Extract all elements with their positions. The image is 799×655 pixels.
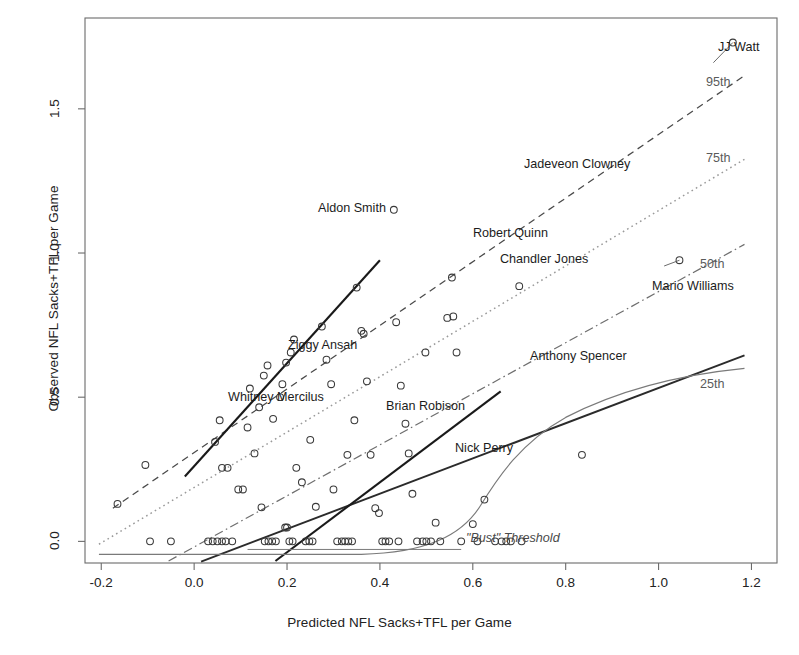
scatter-point (390, 206, 397, 213)
scatter-points (114, 39, 736, 545)
label-percentile-25: 25th (700, 378, 725, 391)
x-tick-label: 0.6 (463, 575, 482, 590)
scatter-point (264, 362, 271, 369)
x-tick-label: 1.2 (742, 575, 761, 590)
scatter-point (395, 538, 402, 545)
scatter-point (293, 464, 300, 471)
label-nick-perry: Nick Perry (455, 442, 513, 455)
scatter-point (422, 349, 429, 356)
scatter-point (168, 538, 175, 545)
scatter-point (114, 500, 121, 507)
label-percentile-50: 50th (700, 258, 725, 271)
x-axis-ticks (101, 563, 751, 570)
label-aldon-smith: Aldon Smith (318, 202, 386, 215)
scatter-point (279, 381, 286, 388)
label-anthony-spencer: Anthony Spencer (530, 350, 627, 363)
x-axis-title: Predicted NFL Sacks+TFL per Game (0, 615, 799, 630)
scatter-point (260, 372, 267, 379)
scatter-point (409, 490, 416, 497)
scatter-point (579, 451, 586, 458)
scatter-point (270, 415, 277, 422)
percentile-regression-lines (99, 76, 745, 562)
scatter-point (147, 538, 154, 545)
scatter-point (312, 503, 319, 510)
scatter-point (402, 420, 409, 427)
label-brian-robison: Brian Robison (386, 400, 465, 413)
scatter-point (450, 313, 457, 320)
scatter-point (328, 381, 335, 388)
label-mario-williams: Mario Williams (652, 280, 734, 293)
scatter-point (351, 417, 358, 424)
scatter-point (376, 510, 383, 517)
label-jj-watt: JJ Watt (718, 41, 760, 54)
y-axis-title: Observed NFL Sacks+TFL per Game (46, 99, 61, 499)
scatter-point (244, 424, 251, 431)
emphasis-segment-95 (185, 260, 380, 476)
label-jadeveon-clowney: Jadeveon Clowney (524, 158, 630, 171)
scatter-point (344, 451, 351, 458)
scatter-point (256, 404, 263, 411)
bust-threshold-path (99, 368, 745, 554)
label-percentile-75: 75th (706, 152, 731, 165)
chart-container: Predicted NFL Sacks+TFL per Game Observe… (0, 0, 799, 655)
scatter-point (142, 462, 149, 469)
scatter-point (432, 519, 439, 526)
scatter-point (307, 436, 314, 443)
percentile-line-p95 (113, 76, 745, 509)
label-chandler-jones: Chandler Jones (500, 253, 588, 266)
scatter-point (516, 283, 523, 290)
label-robert-quinn: Robert Quinn (473, 227, 548, 240)
label-percentile-95: 95th (706, 76, 731, 89)
scatter-point (372, 505, 379, 512)
y-axis-ticks (78, 109, 85, 542)
x-tick-label: 0.4 (371, 575, 390, 590)
scatter-point (393, 319, 400, 326)
x-tick-label: 0.0 (185, 575, 204, 590)
label-ziggy-ansah: Ziggy Ansah (288, 339, 357, 352)
scatter-point (458, 538, 465, 545)
bust-threshold-curve (99, 368, 745, 554)
y-tick-label: 1.5 (47, 91, 62, 125)
label-whitney-mercilus: Whitney Mercilus (228, 391, 324, 404)
scatter-point (229, 538, 236, 545)
scatter-plot-canvas (0, 0, 799, 655)
scatter-point (367, 451, 374, 458)
x-tick-label: 0.8 (556, 575, 575, 590)
scatter-point (469, 521, 476, 528)
scatter-point (330, 486, 337, 493)
scatter-point (216, 417, 223, 424)
x-tick-label: 1.0 (649, 575, 668, 590)
scatter-point (364, 378, 371, 385)
y-tick-label: 0.5 (47, 380, 62, 414)
y-tick-label: 0.0 (47, 524, 62, 558)
scatter-point (397, 382, 404, 389)
x-tick-label: -0.2 (90, 575, 113, 590)
label-bust-threshold: "Bust" Threshold (466, 532, 560, 545)
y-tick-label: 1.0 (47, 236, 62, 270)
scatter-point (405, 450, 412, 457)
x-tick-label: 0.2 (278, 575, 297, 590)
scatter-point (453, 349, 460, 356)
scatter-point (298, 479, 305, 486)
scatter-point (240, 486, 247, 493)
